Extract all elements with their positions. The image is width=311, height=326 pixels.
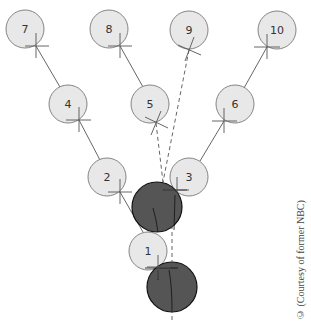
label-2: 2 [104, 171, 111, 184]
label-10: 10 [270, 24, 284, 37]
label-5: 5 [147, 98, 154, 111]
image-credit: © (Courtesy of former NBC) [295, 180, 309, 320]
label-7: 7 [22, 23, 29, 36]
edge-7-4 [36, 46, 60, 87]
label-1: 1 [145, 245, 152, 258]
label-9: 9 [186, 24, 193, 37]
dashed-edge-5 [156, 123, 163, 182]
edge-8-5 [120, 46, 143, 87]
edge-6-3 [200, 121, 224, 161]
label-3: 3 [186, 171, 193, 184]
label-4: 4 [65, 98, 72, 111]
edge-10-6 [244, 47, 267, 88]
edge-4-2 [79, 120, 100, 160]
tree-diagram: 7 8 9 10 4 5 6 2 3 1 [0, 0, 311, 326]
label-8: 8 [106, 23, 113, 36]
label-6: 6 [232, 98, 239, 111]
